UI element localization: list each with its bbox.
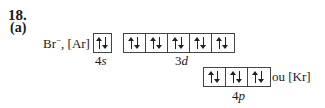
spin-down-arrow-icon [158,37,160,49]
spin-up-arrow-icon [174,37,176,49]
spin-down-arrow-icon [260,71,262,83]
orbital-box [94,34,111,52]
core-notation: , [Ar] [61,36,90,51]
spin-up-arrow-icon [218,37,220,49]
spin-down-arrow-icon [180,37,182,49]
orbital-4p [203,67,271,87]
ion-label: Br−, [Ar] [43,35,90,52]
spin-down-arrow-icon [202,37,204,49]
orbital-box [248,68,270,86]
orbital-4s [93,33,112,53]
orbital-box [146,34,168,52]
spin-up-arrow-icon [152,37,154,49]
spin-up-arrow-icon [210,71,212,83]
spin-down-arrow-icon [136,37,138,49]
orbital-box [212,34,234,52]
orbital-label-4s: 4s [95,53,107,69]
spin-down-arrow-icon [104,37,106,49]
orbital-box [124,34,146,52]
alternative-notation: ou [Kr] [272,69,311,85]
spin-up-arrow-icon [130,37,132,49]
orbital-box [226,68,248,86]
ion-symbol: Br [43,36,56,51]
spin-up-arrow-icon [196,37,198,49]
spin-down-arrow-icon [238,71,240,83]
orbital-label-3d: 3d [175,53,188,69]
problem-part: (a) [10,20,26,36]
spin-up-arrow-icon [98,37,100,49]
orbital-3d [123,33,235,53]
spin-up-arrow-icon [232,71,234,83]
orbital-box [204,68,226,86]
orbital-label-4p: 4p [232,88,245,104]
spin-up-arrow-icon [254,71,256,83]
spin-down-arrow-icon [216,71,218,83]
orbital-box [190,34,212,52]
orbital-box [168,34,190,52]
spin-down-arrow-icon [224,37,226,49]
